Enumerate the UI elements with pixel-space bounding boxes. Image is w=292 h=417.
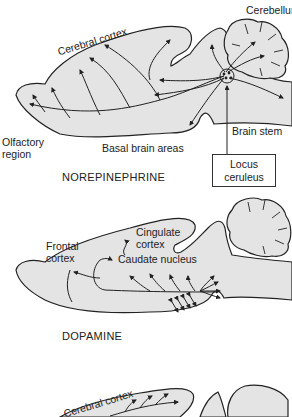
label-cingulate-line2: cortex — [136, 238, 165, 250]
label-locus-line2: ceruleus — [213, 171, 275, 184]
brain-diagrams — [0, 0, 292, 417]
label-basal-brain-areas: Basal brain areas — [102, 142, 184, 154]
label-frontal-line2: cortex — [46, 252, 75, 264]
label-olfactory-line2: region — [2, 148, 31, 160]
caption-norepinephrine: NOREPINEPHRINE — [62, 171, 165, 183]
caption-dopamine: DOPAMINE — [62, 330, 122, 342]
label-caudate-nucleus: Caudate nucleus — [118, 253, 197, 265]
label-cerebellum: Cerebellum — [246, 4, 292, 16]
label-cingulate-line1: Cingulate — [136, 226, 180, 238]
label-frontal-line1: Frontal — [46, 240, 79, 252]
label-brain-stem: Brain stem — [232, 125, 282, 137]
label-olfactory-line1: Olfactory — [2, 136, 44, 148]
locus-ceruleus-box: Locus ceruleus — [212, 154, 276, 187]
label-locus-line1: Locus — [213, 158, 275, 171]
